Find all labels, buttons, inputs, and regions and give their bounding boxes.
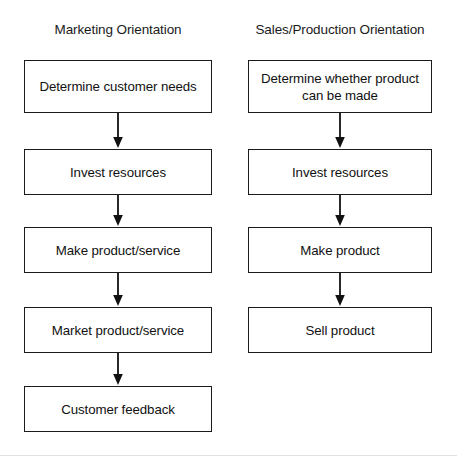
flow-box-make-product: Make product	[248, 227, 432, 273]
column-heading-sales-production: Sales/Production Orientation	[248, 22, 432, 37]
bottom-divider	[0, 455, 457, 456]
flow-box-market-product-service: Market product/service	[24, 307, 212, 353]
flow-box-determine-customer-needs: Determine customer needs	[24, 60, 212, 113]
down-arrow-icon	[110, 353, 126, 386]
flow-box-sell-product: Sell product	[248, 307, 432, 353]
down-arrow-icon	[110, 113, 126, 149]
flow-box-make-product-service: Make product/service	[24, 227, 212, 273]
down-arrow-icon	[332, 113, 348, 149]
flow-box-customer-feedback: Customer feedback	[24, 386, 212, 432]
flowchart-diagram: Marketing Orientation Sales/Production O…	[0, 0, 457, 463]
flow-box-invest-resources-left: Invest resources	[24, 149, 212, 195]
down-arrow-icon	[332, 273, 348, 307]
flow-box-determine-whether-product-can-be-made: Determine whether product can be made	[248, 60, 432, 113]
column-heading-marketing: Marketing Orientation	[24, 22, 212, 37]
down-arrow-icon	[332, 195, 348, 227]
flow-box-invest-resources-right: Invest resources	[248, 149, 432, 195]
down-arrow-icon	[110, 195, 126, 227]
down-arrow-icon	[110, 273, 126, 307]
